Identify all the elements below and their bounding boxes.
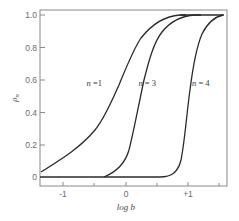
curve-label-n3: n = 3 [138,78,156,88]
y-tick-label: 0.4 [25,108,37,118]
x-axis [63,182,219,186]
x-tick-labels: -1 0 +1 [59,189,193,199]
x-axis-title: log b [117,202,136,212]
x-tick-label: 0 [124,189,129,199]
x-tick-label: -1 [59,189,67,199]
curve-n3 [104,15,201,177]
x-tick-label: +1 [183,189,193,199]
curve-n1 [41,15,186,172]
curve-label-n4: n = 4 [192,78,210,88]
y-tick-label: 0.2 [25,140,37,150]
y-axis [40,15,45,145]
y-tick-label: 1.0 [25,10,37,20]
y-tick-label: 0 [32,172,37,182]
y-tick-labels: 1.0 0.8 0.6 0.4 0.2 0 [25,10,37,182]
plot-frame [40,10,227,186]
curve-n4 [160,15,223,177]
y-axis-title: ρn [9,94,20,103]
y-tick-label: 0.6 [25,75,37,85]
curve-label-n1: n =1 [87,78,102,88]
y-tick-label: 0.8 [25,43,37,53]
line-chart: 1.0 0.8 0.6 0.4 0.2 0 -1 0 +1 log b ρn n… [0,0,239,221]
